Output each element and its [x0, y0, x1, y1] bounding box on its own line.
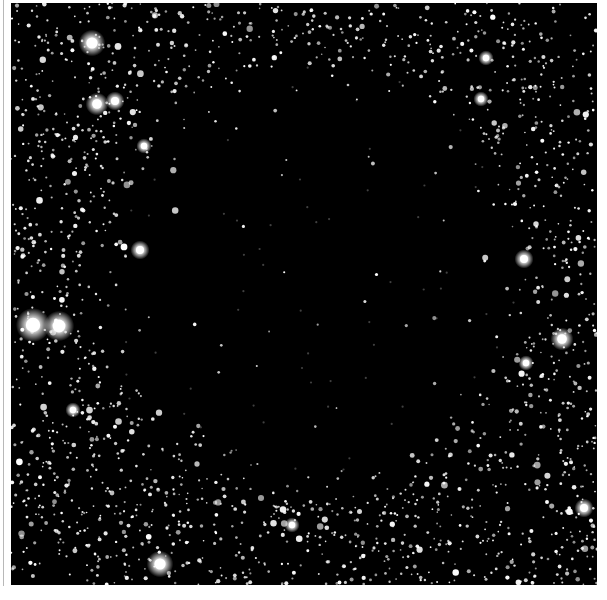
- star-field: [11, 3, 597, 585]
- nebula-photograph: [11, 3, 597, 585]
- frame-edge-line: [3, 0, 4, 586]
